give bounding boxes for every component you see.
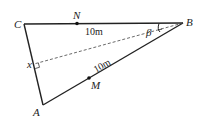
label-ab-length: 10m xyxy=(91,56,112,75)
label-c: C xyxy=(14,18,22,30)
label-n: N xyxy=(72,9,81,21)
angle-arc-beta xyxy=(158,24,160,33)
side-ab xyxy=(43,23,183,105)
label-beta: β xyxy=(145,26,152,38)
label-b: B xyxy=(186,16,193,28)
label-x: x xyxy=(26,58,32,70)
label-m: M xyxy=(90,79,101,91)
point-n xyxy=(75,22,79,26)
triangle-diagram: C N B A M x β 10m 10m xyxy=(0,0,201,123)
label-a: A xyxy=(32,106,40,118)
label-cb-length: 10m xyxy=(85,26,103,37)
